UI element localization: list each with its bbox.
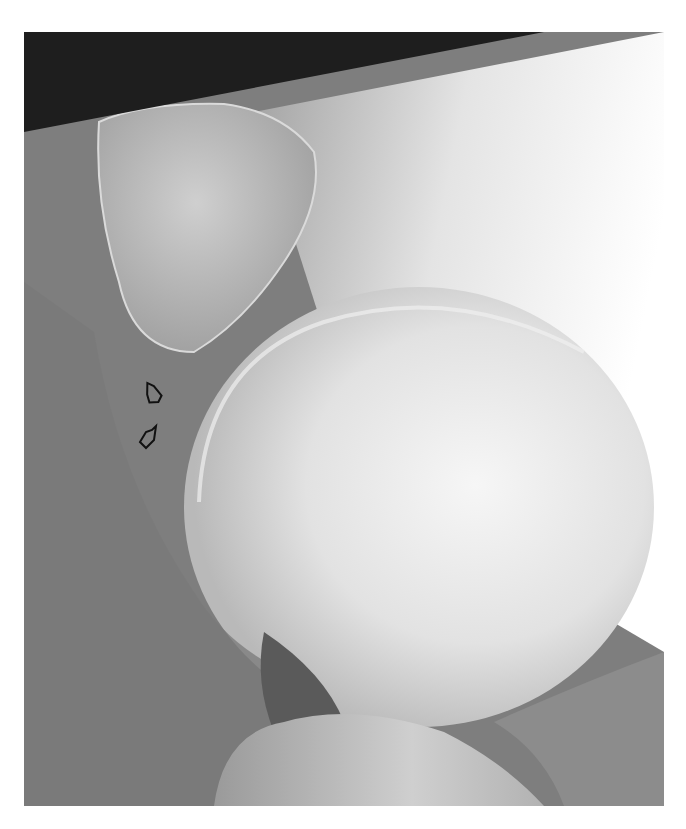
- xray-image: [24, 32, 664, 806]
- xray-svg: [24, 32, 664, 806]
